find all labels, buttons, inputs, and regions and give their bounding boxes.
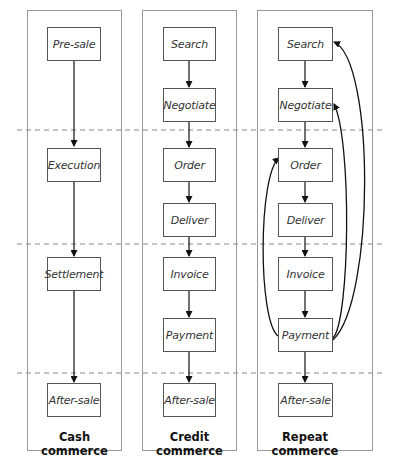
- step-search: Search: [163, 27, 216, 61]
- step-negotiate: Negotiate: [278, 88, 333, 122]
- step-deliver: Deliver: [163, 203, 216, 237]
- step-search: Search: [278, 27, 333, 61]
- step-pre-sale: Pre-sale: [47, 27, 101, 61]
- column-title-cash-commerce: Cash commerce: [27, 430, 122, 458]
- loop-payment-to-negotiate: [333, 104, 347, 338]
- step-after-sale: After-sale: [163, 383, 216, 417]
- step-order: Order: [163, 148, 216, 182]
- commerce-process-diagram: Pre-sale Execution Settlement After-sale…: [0, 0, 400, 463]
- step-payment: Payment: [163, 318, 216, 352]
- step-deliver: Deliver: [278, 203, 333, 237]
- step-after-sale: After-sale: [47, 383, 101, 417]
- step-invoice: Invoice: [278, 257, 333, 291]
- step-settlement: Settlement: [47, 257, 101, 291]
- step-execution: Execution: [47, 148, 101, 182]
- loop-payment-to-search: [333, 42, 365, 340]
- loop-payment-to-order: [263, 158, 279, 336]
- feedback-loop-arrows: [263, 42, 365, 340]
- column-title-credit-commerce: Credit commerce: [136, 430, 243, 458]
- step-negotiate: Negotiate: [163, 88, 216, 122]
- step-order: Order: [278, 148, 333, 182]
- step-payment: Payment: [278, 318, 333, 352]
- step-after-sale: After-sale: [278, 383, 333, 417]
- column-title-repeat-commerce: Repeat commerce: [257, 430, 353, 458]
- step-invoice: Invoice: [163, 257, 216, 291]
